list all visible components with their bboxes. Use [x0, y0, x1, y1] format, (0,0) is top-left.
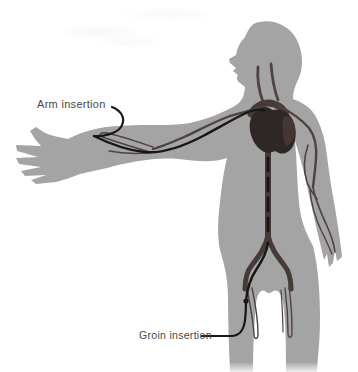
body-silhouette [16, 21, 342, 372]
body-illustration [0, 0, 358, 372]
medical-diagram: Arm insertion Groin insertion [0, 0, 358, 372]
groin-insertion-label: Groin insertion [139, 330, 212, 341]
groin-insertion-dot [243, 298, 248, 303]
arm-insertion-label: Arm insertion [37, 99, 106, 110]
